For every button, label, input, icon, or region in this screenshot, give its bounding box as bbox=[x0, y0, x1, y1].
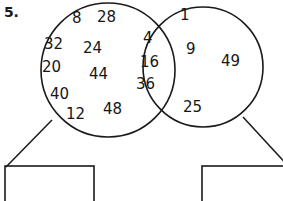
intersection-number: 16 bbox=[140, 55, 159, 70]
left-connector-line bbox=[6, 120, 52, 167]
left-set-number: 32 bbox=[44, 37, 63, 52]
right-connector-line bbox=[243, 117, 283, 167]
left-set-number: 20 bbox=[42, 60, 61, 75]
right-circle[interactable] bbox=[143, 7, 263, 127]
left-set-number: 28 bbox=[97, 10, 116, 25]
right-set-number: 1 bbox=[180, 8, 190, 23]
left-set-number: 8 bbox=[72, 11, 82, 26]
left-set-number: 12 bbox=[66, 107, 85, 122]
left-set-number: 48 bbox=[103, 102, 122, 117]
venn-diagram-graphic bbox=[0, 0, 283, 201]
left-set-number: 44 bbox=[89, 67, 108, 82]
left-answer-box[interactable] bbox=[5, 166, 94, 201]
right-answer-box[interactable] bbox=[202, 166, 283, 201]
right-set-number: 25 bbox=[183, 100, 202, 115]
right-set-number: 49 bbox=[221, 54, 240, 69]
right-set-number: 9 bbox=[186, 42, 196, 57]
left-set-number: 24 bbox=[83, 41, 102, 56]
left-set-number: 40 bbox=[50, 87, 69, 102]
intersection-number: 4 bbox=[143, 31, 153, 46]
worksheet-page: 5. 8 28 32 24 20 44 40 12 48 4 16 36 1 9… bbox=[0, 0, 283, 201]
intersection-number: 36 bbox=[136, 77, 155, 92]
